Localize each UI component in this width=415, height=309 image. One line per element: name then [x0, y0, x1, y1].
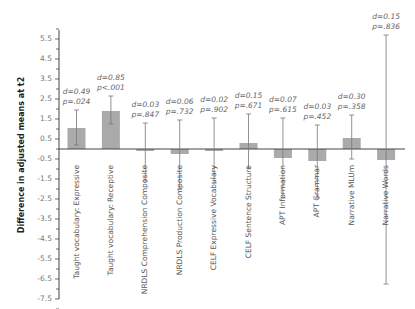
x-category-label: Narrative Words: [381, 165, 390, 225]
x-category-label: NRDLS Comprehension Composite: [140, 165, 149, 294]
effect-size-annotation: d=0.15p=.836: [366, 12, 406, 32]
y-tick-label: -0.5: [26, 154, 52, 163]
cohens-d-label: d=0.30: [332, 92, 372, 102]
p-value-label: p<.001: [91, 83, 131, 93]
y-tick-label: 3.5: [26, 74, 52, 83]
p-value-label: p=.358: [332, 102, 372, 112]
effect-size-annotation: d=0.85p<.001: [91, 73, 131, 93]
effect-size-annotation: d=0.30p=.358: [332, 92, 372, 112]
y-tick-label: -3.5: [26, 214, 52, 223]
x-category-label: Narrative MLUm: [347, 165, 356, 225]
y-tick-label: -7.5: [26, 294, 52, 303]
cohens-d-label: d=0.15: [366, 12, 406, 22]
y-tick-label: 2.5: [26, 94, 52, 103]
plot-area: [0, 0, 415, 309]
y-tick-label: 5.5: [26, 34, 52, 43]
y-tick-label: 1.5: [26, 114, 52, 123]
p-value-label: p=.452: [297, 112, 337, 122]
y-tick-label: -5.5: [26, 254, 52, 263]
cohens-d-label: d=0.85: [91, 73, 131, 83]
x-category-label: Taught vocabulary: Expressive: [72, 165, 81, 279]
y-tick-label: -6.5: [26, 274, 52, 283]
x-category-label: CELF Sentence Structure: [244, 165, 253, 258]
y-tick-label: -4.5: [26, 234, 52, 243]
p-value-label: p=.024: [57, 97, 97, 107]
x-category-label: APT Grammar: [312, 165, 321, 217]
y-tick-label: -1.5: [26, 174, 52, 183]
x-category-label: CELF Expressive Vocabulary: [209, 165, 218, 270]
x-category-label: Taught vocabulary: Receptive: [106, 165, 115, 275]
x-category-label: NRDLS Production Composite: [175, 165, 184, 275]
x-category-label: APT Information: [278, 165, 287, 225]
y-tick-label: 4.5: [26, 54, 52, 63]
p-value-label: p=.836: [366, 22, 406, 32]
y-tick-label: -2.5: [26, 194, 52, 203]
bar-chart: Difference in adjusted means at t2 5.54.…: [0, 0, 415, 309]
y-tick-label: 0.5: [26, 134, 52, 143]
